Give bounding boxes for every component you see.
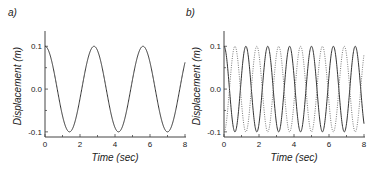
series-line-displacement xyxy=(45,46,185,132)
x-tick-label: 8 xyxy=(362,140,367,149)
series-line-mode-1 xyxy=(224,46,364,132)
x-tick-label: 8 xyxy=(183,140,188,149)
chart-panel-b: b)02468-0.10.00.1Time (sec)Displacement … xyxy=(186,7,367,163)
x-tick-label: 0 xyxy=(222,140,227,149)
x-axis-title: Time (sec) xyxy=(270,152,317,163)
x-tick-label: 4 xyxy=(113,140,118,149)
y-tick-label: 0.0 xyxy=(210,85,222,94)
y-axis-title: Displacement (m) xyxy=(12,47,23,125)
panel-label: b) xyxy=(186,7,195,18)
y-tick-label: -0.1 xyxy=(28,128,42,137)
y-tick-label: 0.0 xyxy=(31,85,43,94)
panel-label: a) xyxy=(8,7,17,18)
y-tick-label: 0.1 xyxy=(31,42,43,51)
x-tick-label: 6 xyxy=(148,140,153,149)
y-tick-label: 0.1 xyxy=(210,42,222,51)
y-tick-label: -0.1 xyxy=(207,128,221,137)
x-tick-label: 4 xyxy=(292,140,297,149)
x-tick-label: 2 xyxy=(78,140,83,149)
x-axis-title: Time (sec) xyxy=(91,152,138,163)
x-tick-label: 0 xyxy=(43,140,48,149)
figure: a)02468-0.10.00.1Time (sec)Displacement … xyxy=(0,0,380,175)
series-line-mode-2 xyxy=(224,46,364,132)
x-tick-label: 2 xyxy=(257,140,262,149)
chart-panel-a: a)02468-0.10.00.1Time (sec)Displacement … xyxy=(8,7,188,163)
x-tick-label: 6 xyxy=(327,140,332,149)
y-axis-title: Displacement (m) xyxy=(191,47,202,125)
